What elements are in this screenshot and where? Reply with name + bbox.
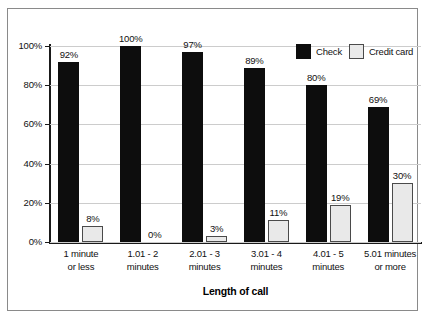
bar-check[interactable] — [182, 52, 203, 242]
bar-value-label: 100% — [119, 33, 143, 44]
bar-credit-card[interactable] — [206, 236, 227, 242]
bar-credit-card[interactable] — [392, 183, 413, 242]
y-axis-tick-label: 40% — [24, 158, 42, 169]
bar-value-label: 0% — [148, 229, 161, 240]
y-axis-tick-label: 0% — [29, 236, 42, 247]
legend-item-credit-card: Credit card — [349, 44, 413, 59]
bar-value-label: 11% — [270, 207, 288, 218]
bar-check[interactable] — [244, 68, 265, 242]
y-axis-tickmark — [45, 203, 50, 204]
y-axis-tick-label: 80% — [24, 79, 42, 90]
bar-value-label: 30% — [393, 170, 411, 181]
y-axis-tick-label: 20% — [24, 197, 42, 208]
legend-item-check: Check — [296, 44, 342, 59]
bar-group: 97%3% — [174, 46, 236, 242]
x-axis-title: Length of call — [50, 285, 421, 297]
bar-value-label: 92% — [60, 49, 78, 60]
gridline — [50, 242, 421, 243]
legend-swatch-credit-card-icon — [349, 44, 364, 59]
legend-label-credit-card: Credit card — [369, 46, 413, 57]
x-axis-categories: 1 minuteor less1.01 - 2minutes2.01 - 3mi… — [50, 248, 421, 280]
bar-value-label: 69% — [369, 94, 387, 105]
bar-check[interactable] — [306, 85, 327, 242]
x-axis-category-label: 5.01 minutesor more — [359, 248, 421, 273]
y-axis-tickmark — [45, 242, 50, 243]
x-axis-category-label: 3.01 - 4minutes — [236, 248, 298, 273]
bar-check[interactable] — [368, 107, 389, 242]
bar-credit-card[interactable] — [268, 220, 289, 242]
chart-figure: 0%20%40%60%80%100% 92%8%100%0%97%3%89%11… — [0, 0, 426, 323]
y-axis-tick-label: 60% — [24, 118, 42, 129]
y-axis-tick-label: 100% — [19, 40, 43, 51]
bar-group: 89%11% — [236, 46, 298, 242]
y-axis-tickmark — [45, 124, 50, 125]
bar-value-label: 3% — [210, 223, 223, 234]
bar-group: 80%19% — [297, 46, 359, 242]
bar-group: 92%8% — [50, 46, 112, 242]
y-axis-labels: 0%20%40%60%80%100% — [0, 46, 46, 242]
bar-value-label: 19% — [331, 192, 349, 203]
bar-check[interactable] — [58, 62, 79, 242]
bar-check[interactable] — [120, 46, 141, 242]
chart-legend: Check Credit card — [296, 44, 413, 59]
x-axis-category-label: 1 minuteor less — [50, 248, 112, 273]
bar-value-label: 80% — [307, 72, 325, 83]
x-axis-category-label: 2.01 - 3minutes — [174, 248, 236, 273]
bar-value-label: 89% — [245, 55, 263, 66]
bar-value-label: 97% — [183, 39, 201, 50]
legend-label-check: Check — [316, 46, 342, 57]
y-axis-tickmark — [45, 164, 50, 165]
bar-credit-card[interactable] — [82, 226, 103, 242]
x-axis-category-label: 4.01 - 5minutes — [297, 248, 359, 273]
bar-credit-card[interactable] — [330, 205, 351, 242]
bar-group: 69%30% — [359, 46, 421, 242]
bar-value-label: 8% — [86, 213, 99, 224]
x-axis-category-label: 1.01 - 2minutes — [112, 248, 174, 273]
bar-group: 100%0% — [112, 46, 174, 242]
legend-swatch-check-icon — [296, 44, 311, 59]
plot-area: 92%8%100%0%97%3%89%11%80%19%69%30% — [50, 46, 421, 242]
y-axis-tickmark — [45, 85, 50, 86]
y-axis-tickmark — [45, 46, 50, 47]
